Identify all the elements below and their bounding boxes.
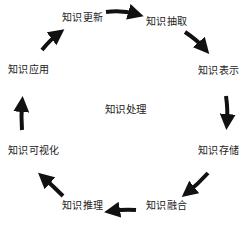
- node-represent: 知识表示: [198, 65, 239, 77]
- node-update: 知识更新: [62, 12, 103, 24]
- arrow-store-to-fuse: [188, 173, 208, 192]
- cycle-arrows: [0, 0, 243, 234]
- arrow-apply-to-update: [42, 34, 58, 50]
- arrow-visualize-to-apply: [22, 104, 23, 130]
- node-extract: 知识抽取: [146, 16, 187, 28]
- node-fuse: 知识融合: [146, 200, 187, 212]
- arrow-reason-to-visualize: [44, 178, 63, 196]
- arrow-represent-to-store: [226, 96, 227, 122]
- arrow-update-to-extract: [106, 11, 136, 14]
- arrow-extract-to-represent: [185, 32, 204, 48]
- node-visualize: 知识可视化: [8, 145, 60, 157]
- arrow-fuse-to-reason: [112, 210, 136, 211]
- node-store: 知识存储: [198, 145, 239, 157]
- node-reason: 知识推理: [62, 200, 103, 212]
- node-apply: 知识应用: [8, 64, 49, 76]
- center-label: 知识处理: [105, 103, 146, 115]
